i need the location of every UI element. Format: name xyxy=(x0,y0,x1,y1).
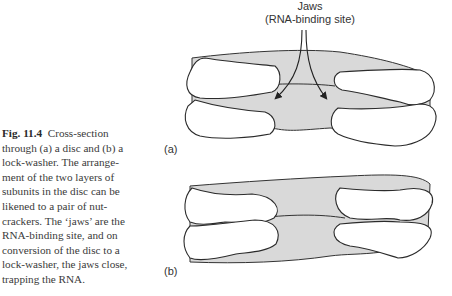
cross-section-diagram xyxy=(0,0,452,296)
subunit-top-right xyxy=(336,188,433,220)
disc-diagram xyxy=(185,30,436,146)
subunit-bottom-right xyxy=(331,104,436,146)
lock-washer-diagram xyxy=(184,175,433,263)
